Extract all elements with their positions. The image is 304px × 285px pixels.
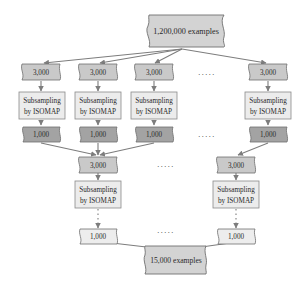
input-sample-label: 3,000 — [90, 162, 107, 170]
process-line-2: by ISOMAP — [218, 197, 254, 205]
process-line-1: Subsampling — [249, 97, 287, 105]
input-sample-label: 3,000 — [228, 162, 245, 170]
input-sample-label: 3,000 — [146, 69, 163, 77]
level1-column-3: 3,000 Subsampling by ISOMAP 1,000 — [131, 64, 177, 142]
arrow-merge-col4 — [238, 143, 268, 155]
process-line-2: by ISOMAP — [136, 108, 172, 116]
arrow-merge-col1 — [41, 143, 96, 155]
process-line-1: Subsampling — [217, 186, 255, 194]
input-sample-label: 3,000 — [90, 69, 107, 77]
level1-column-1: 3,000 Subsampling by ISOMAP 1,000 — [19, 64, 65, 142]
level2-column-2: 3,000 Subsampling by ISOMAP 1,000 — [213, 157, 259, 244]
isomap-subsampling-flow-diagram: 1,200,000 examples 3,000 Subsampling by … — [0, 0, 304, 285]
level1-input-ellipsis: ..... — [198, 68, 216, 77]
process-line-1: Subsampling — [79, 186, 117, 194]
result-label: 15,000 examples — [150, 256, 202, 265]
process-line-2: by ISOMAP — [80, 108, 116, 116]
level2-column-1: 3,000 Subsampling by ISOMAP 1,000 — [75, 157, 121, 244]
result-box: 15,000 examples — [144, 246, 206, 274]
input-sample-label: 3,000 — [33, 69, 50, 77]
level2-input-ellipsis: ..... — [157, 160, 175, 169]
arrow-merge-col3 — [100, 143, 154, 155]
level1-column-4: 3,000 Subsampling by ISOMAP 1,000 — [245, 64, 291, 142]
process-line-2: by ISOMAP — [24, 108, 60, 116]
process-line-1: Subsampling — [135, 97, 173, 105]
input-sample-label: 3,000 — [260, 69, 277, 77]
output-sample-label: 1,000 — [33, 131, 50, 139]
output-sample-label: 1,000 — [90, 233, 107, 241]
process-line-1: Subsampling — [79, 97, 117, 105]
arrow-source-to-col4 — [182, 49, 266, 63]
process-line-2: by ISOMAP — [250, 108, 286, 116]
output-sample-label: 1,000 — [228, 233, 245, 241]
process-line-1: Subsampling — [23, 97, 61, 105]
source-label: 1,200,000 examples — [153, 27, 219, 36]
output-sample-label: 1,000 — [260, 131, 277, 139]
output-sample-label: 1,000 — [146, 131, 163, 139]
source-box: 1,200,000 examples — [147, 15, 225, 47]
process-line-2: by ISOMAP — [80, 197, 116, 205]
level2-output-ellipsis: ..... — [157, 226, 175, 235]
output-sample-label: 1,000 — [90, 131, 107, 139]
level1-column-2: 3,000 Subsampling by ISOMAP 1,000 — [75, 64, 121, 142]
level1-output-ellipsis: ..... — [198, 130, 216, 139]
